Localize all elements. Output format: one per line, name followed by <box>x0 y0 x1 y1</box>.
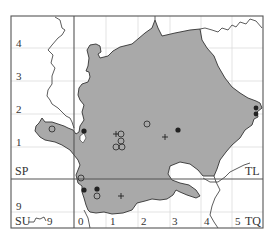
x-label-5: 5 <box>235 216 241 227</box>
county-region <box>35 20 262 214</box>
x-label-3: 3 <box>172 216 178 227</box>
x-label-2: 2 <box>141 216 147 227</box>
y-label-1: 1 <box>16 137 22 148</box>
x-label-0: 0 <box>78 216 84 227</box>
x-label-9: 9 <box>47 216 53 227</box>
grid-square-su: SU <box>15 215 30 227</box>
x-label-4: 4 <box>204 216 210 227</box>
x-label-1: 1 <box>110 216 116 227</box>
y-label-4: 4 <box>16 38 22 49</box>
grid-square-tq: TQ <box>245 215 261 227</box>
y-label-2: 2 <box>16 104 22 115</box>
distribution-map <box>0 0 274 240</box>
y-label-3: 3 <box>16 71 22 82</box>
y-label-9: 9 <box>16 201 22 212</box>
grid-square-sp: SP <box>15 165 28 177</box>
grid-square-tl: TL <box>245 165 260 177</box>
